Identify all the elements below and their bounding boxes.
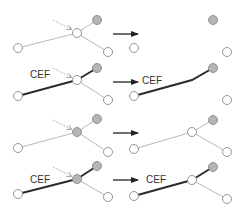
node-gray-left-row3 (93, 115, 102, 124)
edge-thin (77, 179, 108, 197)
node-white-left-row3 (104, 148, 113, 157)
dotted-arrow-icon (53, 167, 71, 176)
edges-layer (18, 20, 227, 199)
node-white-left-row3 (14, 144, 23, 153)
node-white-left-row4 (14, 190, 23, 199)
cef-transition-diagram: CEFCEFCEFCEF (0, 0, 244, 216)
cef-label: CEF (142, 75, 162, 86)
node-white-right-row4 (130, 192, 139, 201)
node-white-left-row1 (104, 48, 113, 57)
edge-thin (77, 33, 108, 52)
cef-label: CEF (146, 174, 166, 185)
node-gray-right-row2 (209, 64, 218, 73)
node-white-right-row2 (223, 96, 232, 105)
node-gray-right-row1 (209, 16, 218, 25)
node-gray-left-row4 (93, 162, 102, 171)
node-white-right-row1 (130, 44, 139, 53)
node-white-right-row4 (188, 176, 197, 185)
edge-thin (18, 132, 77, 148)
node-gray-left-row4 (73, 175, 82, 184)
edge-thin (18, 33, 77, 48)
node-white-left-row2 (73, 76, 82, 85)
node-gray-right-row4 (209, 163, 218, 172)
node-white-right-row1 (223, 48, 232, 57)
dotted-arrow-icon (53, 20, 71, 29)
node-white-right-row3 (130, 145, 139, 154)
dotted-arrow-icon (53, 68, 71, 77)
node-white-right-row4 (223, 195, 232, 204)
node-white-right-row2 (130, 92, 139, 101)
edge-thin (77, 80, 108, 100)
dotted-arrow-icon (53, 120, 71, 129)
edge-thin (134, 132, 192, 149)
edge-thin (192, 132, 227, 152)
node-white-right-row3 (223, 148, 232, 157)
edge-thick (18, 80, 77, 96)
node-white-left-row4 (104, 193, 113, 202)
node-white-left-row1 (14, 44, 23, 53)
node-white-left-row2 (104, 96, 113, 105)
node-gray-left-row1 (93, 16, 102, 25)
cef-label: CEF (30, 69, 50, 80)
node-gray-right-row3 (209, 116, 218, 125)
cef-label: CEF (30, 174, 50, 185)
node-white-left-row2 (14, 92, 23, 101)
edge-thin (77, 132, 108, 152)
node-white-right-row3 (188, 128, 197, 137)
node-white-left-row1 (73, 29, 82, 38)
node-gray-left-row3 (73, 128, 82, 137)
edge-thin (192, 180, 227, 199)
node-gray-left-row2 (93, 64, 102, 73)
